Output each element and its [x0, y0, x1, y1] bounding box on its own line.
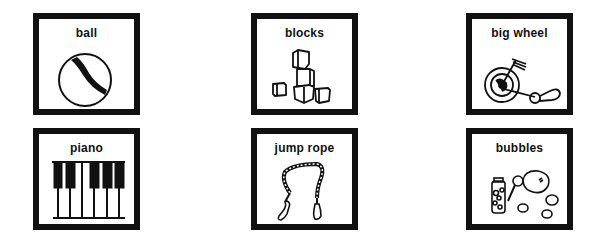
card-ball[interactable]: ball: [33, 13, 140, 115]
card-label: ball: [39, 26, 134, 40]
ball-icon: [39, 43, 134, 109]
card-label: jump rope: [257, 141, 352, 155]
card-label: big wheel: [472, 26, 567, 40]
card-label: piano: [39, 141, 134, 155]
bubbles-icon: [472, 158, 567, 224]
card-label: blocks: [257, 26, 352, 40]
blocks-icon: [257, 43, 352, 109]
piano-icon: [39, 158, 134, 224]
card-blocks[interactable]: blocks: [251, 13, 358, 115]
card-bubbles[interactable]: bubbles: [466, 128, 573, 230]
jump-rope-icon: [257, 158, 352, 224]
card-piano[interactable]: piano: [33, 128, 140, 230]
card-label: bubbles: [472, 141, 567, 155]
big-wheel-icon: [472, 43, 567, 109]
card-jump-rope[interactable]: jump rope: [251, 128, 358, 230]
card-big-wheel[interactable]: big wheel: [466, 13, 573, 115]
